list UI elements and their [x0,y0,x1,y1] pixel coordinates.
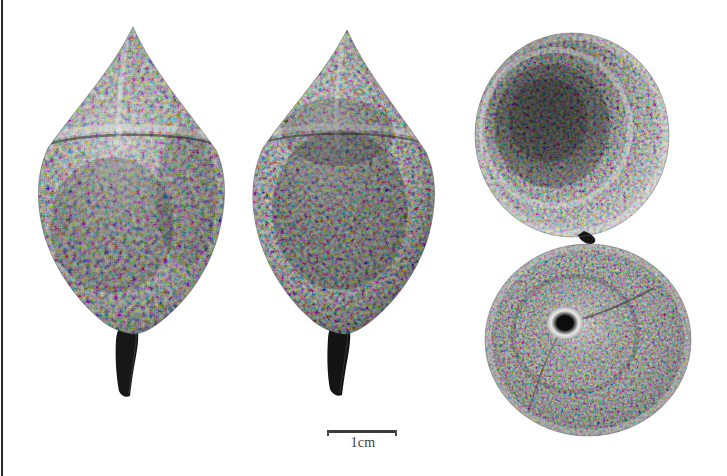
hilum-core-basal [557,316,574,331]
center-shadow-left [50,157,174,293]
specimen-plate: 1cm [0,0,727,476]
plate-left-border-rule [1,0,3,476]
inner-depression-apical [508,78,588,162]
right-shadow-left [156,126,216,266]
upper-shadow-middle [282,98,394,166]
scale-bar-line [327,430,397,433]
scale-bar: 1cm [322,424,404,458]
scale-bar-label: 1cm [322,435,404,451]
specimen-photograph [0,0,727,476]
